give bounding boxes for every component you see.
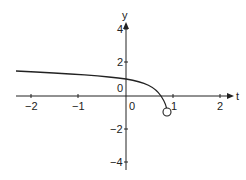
y-tick-label-0: 0 bbox=[117, 82, 123, 94]
y-tick-label-neg2: −2 bbox=[110, 123, 123, 135]
t-tick-label-1: 1 bbox=[171, 100, 177, 112]
open-circle-endpoint bbox=[163, 108, 171, 116]
y-tick-label-neg4: −4 bbox=[110, 156, 123, 168]
t-tick-label-neg2: −2 bbox=[25, 100, 38, 112]
y-tick-label-2: 2 bbox=[117, 56, 123, 68]
y-tick-label-4: 4 bbox=[117, 23, 123, 35]
t-tick-label-2: 2 bbox=[217, 100, 223, 112]
t-axis-label: t bbox=[236, 90, 239, 102]
chart: t y −2 −1 0 1 2 4 2 0 −2 −4 bbox=[0, 0, 246, 180]
t-tick-label-neg1: −1 bbox=[72, 100, 85, 112]
t-axis-arrow-icon bbox=[227, 93, 234, 99]
y-axis-label: y bbox=[122, 9, 128, 21]
solution-curve bbox=[16, 71, 167, 112]
t-tick-label-0: 0 bbox=[129, 100, 135, 112]
y-axis-arrow-icon bbox=[123, 22, 129, 29]
